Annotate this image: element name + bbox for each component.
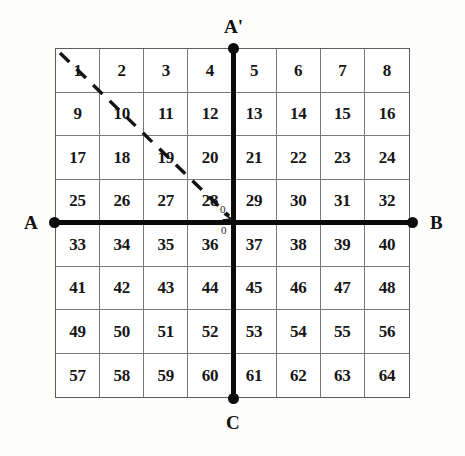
grid-cell[interactable]: 45 [233,267,277,311]
grid-cell[interactable]: 29 [233,180,277,224]
grid-cell-label: 35 [158,236,175,253]
grid-cell-label: 55 [334,323,351,340]
grid-cell[interactable]: 18 [100,136,144,180]
grid-cell[interactable]: 27 [144,180,188,224]
grid-cell[interactable]: 30 [277,180,321,224]
grid-cell[interactable]: 4 [188,49,232,93]
grid-cell[interactable]: 33 [56,223,100,267]
grid-cell[interactable]: 64 [365,354,409,398]
axis-label-A: A [24,213,38,232]
grid-cell-label: 43 [158,279,175,296]
grid-cell-label: 58 [113,367,130,384]
endpoint-dot-C [228,393,239,404]
grid-cell[interactable]: 34 [100,223,144,267]
grid-cell[interactable]: 32 [365,180,409,224]
axis-label-C: C [226,413,240,432]
grid-cell[interactable]: 50 [100,310,144,354]
grid-cell-label: 11 [158,105,174,122]
grid-cell[interactable]: 31 [321,180,365,224]
grid-cell[interactable]: 21 [233,136,277,180]
vertical-axis-ApC [231,47,236,399]
grid-cell[interactable]: 48 [365,267,409,311]
grid-cell-label: 56 [379,323,396,340]
grid-cell[interactable]: 51 [144,310,188,354]
grid-cell-label: 51 [158,323,175,340]
grid-cell-label: 63 [334,367,351,384]
grid-cell[interactable]: 55 [321,310,365,354]
grid-cell-label: 25 [69,192,86,209]
axis-label-A-prime: A' [224,17,243,36]
grid-cell[interactable]: 42 [100,267,144,311]
grid-cell[interactable]: 3 [144,49,188,93]
figure-canvas: 1234567891011121314151617181920212223242… [0,0,465,456]
grid-cell[interactable]: 7 [321,49,365,93]
grid-cell[interactable]: 26 [100,180,144,224]
grid-cell[interactable]: 9 [56,93,100,137]
grid-cell[interactable]: 24 [365,136,409,180]
grid-cell[interactable]: 2 [100,49,144,93]
grid-cell[interactable]: 25 [56,180,100,224]
grid-cell[interactable]: 63 [321,354,365,398]
grid-cell[interactable]: 17 [56,136,100,180]
grid-cell-label: 40 [379,236,396,253]
grid-cell-label: 13 [246,105,263,122]
grid-cell[interactable]: 57 [56,354,100,398]
grid-cell[interactable]: 47 [321,267,365,311]
grid-cell-label: 22 [290,149,307,166]
grid-cell-label: 2 [118,62,126,79]
grid-cell-label: 21 [246,149,263,166]
grid-cell[interactable]: 58 [100,354,144,398]
grid-cell[interactable]: 35 [144,223,188,267]
grid-cell[interactable]: 37 [233,223,277,267]
grid-cell[interactable]: 16 [365,93,409,137]
grid-cell[interactable]: 12 [188,93,232,137]
grid-cell-label: 33 [69,236,86,253]
grid-cell[interactable]: 8 [365,49,409,93]
grid-cell-label: 18 [113,149,130,166]
grid-cell[interactable]: 46 [277,267,321,311]
grid-cell-label: 12 [202,105,219,122]
grid-cell[interactable]: 6 [277,49,321,93]
grid-cell[interactable]: 13 [233,93,277,137]
grid-cell-label: 5 [250,62,258,79]
grid-cell-label: 37 [246,236,263,253]
grid-cell-label: 20 [202,149,219,166]
grid-cell-label: 59 [158,367,175,384]
grid-cell[interactable]: 60 [188,354,232,398]
grid-cell[interactable]: 44 [188,267,232,311]
grid-cell[interactable]: 10 [100,93,144,137]
grid-cell-label: 50 [113,323,130,340]
grid-cell-label: 19 [158,149,175,166]
grid-cell[interactable]: 40 [365,223,409,267]
grid-cell[interactable]: 39 [321,223,365,267]
grid-cell[interactable]: 52 [188,310,232,354]
grid-cell[interactable]: 5 [233,49,277,93]
grid-cell[interactable]: 23 [321,136,365,180]
grid-cell-label: 64 [379,367,396,384]
grid-cell[interactable]: 43 [144,267,188,311]
origin-label-lower: 0 [221,225,227,236]
grid-cell[interactable]: 11 [144,93,188,137]
grid-cell[interactable]: 38 [277,223,321,267]
grid-cell-label: 53 [246,323,263,340]
grid-cell[interactable]: 61 [233,354,277,398]
endpoint-dot-B [407,217,418,228]
grid-cell-label: 16 [379,105,396,122]
grid-cell[interactable]: 28 [188,180,232,224]
grid-cell-label: 24 [379,149,396,166]
grid-cell[interactable]: 54 [277,310,321,354]
grid-cell[interactable]: 62 [277,354,321,398]
grid-cell[interactable]: 14 [277,93,321,137]
grid-cell[interactable]: 53 [233,310,277,354]
grid-cell[interactable]: 41 [56,267,100,311]
grid-cell-label: 17 [69,149,86,166]
grid-cell[interactable]: 20 [188,136,232,180]
grid-cell[interactable]: 19 [144,136,188,180]
grid-cell[interactable]: 49 [56,310,100,354]
grid-cell[interactable]: 22 [277,136,321,180]
grid-cell[interactable]: 15 [321,93,365,137]
grid-cell-label: 42 [113,279,130,296]
grid-cell[interactable]: 56 [365,310,409,354]
grid-cell[interactable]: 59 [144,354,188,398]
grid-cell[interactable]: 1 [56,49,100,93]
